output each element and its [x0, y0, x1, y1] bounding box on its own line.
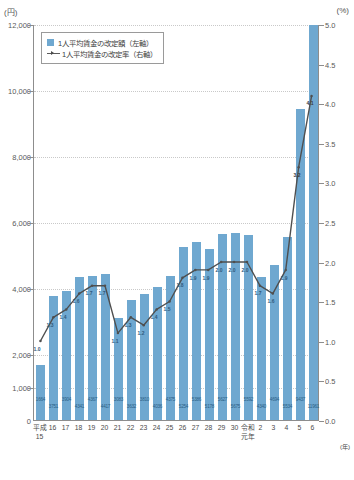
line-marker: [130, 316, 132, 318]
tick-mark-right: [319, 183, 324, 184]
bar-value-label: 4367: [88, 397, 97, 402]
tick-mark-right: [319, 302, 324, 303]
line-marker: [155, 308, 157, 310]
line-marker: [91, 284, 93, 286]
bar-value-label: 5386: [192, 397, 201, 402]
line-value-label: 1.9: [281, 275, 288, 281]
line-marker: [310, 95, 312, 97]
line-series: [34, 25, 318, 420]
bar-value-label: 4694: [270, 397, 279, 402]
y-axis-tick-right: 3.0: [325, 179, 335, 188]
bar-value-label: 5592: [244, 397, 253, 402]
line-value-label: 1.7: [99, 290, 106, 296]
line-value-label: 2.0: [229, 267, 236, 273]
bar-value-label: 5254: [179, 404, 188, 409]
line-value-label: 1.6: [73, 298, 80, 304]
x-axis-label: 3: [272, 424, 276, 433]
line-marker: [220, 261, 222, 263]
x-axis-label: 平成15: [33, 424, 47, 441]
line-value-label: 1.8: [177, 282, 184, 288]
bar-value-label: 4375: [166, 397, 175, 402]
line-marker: [39, 340, 41, 342]
x-axis-label: 令和元年: [241, 424, 255, 441]
line-marker: [104, 284, 106, 286]
right-axis-unit: (%): [337, 6, 349, 15]
bar-value-label: 3083: [114, 397, 123, 402]
y-axis-tick-right: 4.5: [325, 60, 335, 69]
x-axis-label: 21: [114, 424, 122, 433]
x-axis-label: 19: [88, 424, 96, 433]
y-axis-tick-right: 1.0: [325, 337, 335, 346]
x-axis-label: 28: [205, 424, 213, 433]
bar-value-label: 3810: [140, 397, 149, 402]
legend-line-label: 1人平均賃金の改定率（右軸）: [62, 48, 157, 59]
line-value-label: 1.0: [34, 346, 41, 352]
bar-value-label: 4036: [153, 404, 162, 409]
line-marker: [284, 269, 286, 271]
tick-mark-right: [319, 342, 324, 343]
y-axis-tick-right: 5.0: [325, 21, 335, 30]
y-axis-tick-right: 4.0: [325, 100, 335, 109]
line-value-label: 1.5: [164, 306, 171, 312]
legend-item-line: 1人平均賃金の改定率（右軸）: [47, 48, 157, 59]
bar-value-label: 3632: [127, 404, 136, 409]
line-marker: [65, 308, 67, 310]
line-value-label: 1.4: [60, 314, 67, 320]
line-marker: [259, 284, 261, 286]
x-axis-label: 25: [166, 424, 174, 433]
tick-mark-right: [319, 25, 324, 26]
line-value-label: 2.0: [242, 267, 249, 273]
line-value-label: 1.4: [151, 314, 158, 320]
x-axis-label: 26: [179, 424, 187, 433]
x-axis-label: 17: [62, 424, 70, 433]
tick-mark-right: [319, 65, 324, 66]
line-marker: [207, 269, 209, 271]
tick-mark-right: [319, 104, 324, 105]
x-axis-label: 16: [49, 424, 57, 433]
square-swatch-icon: [47, 39, 54, 46]
y-axis-tick-right: 3.5: [325, 139, 335, 148]
wage-revision-chart: (円) (%) 12,00010,0008,0006,0004,0002,000…: [0, 0, 354, 480]
line-value-label: 3.2: [294, 172, 301, 178]
line-value-label: 1.3: [125, 322, 132, 328]
line-value-label: 1.9: [203, 275, 210, 281]
y-axis-tick-right: 1.5: [325, 298, 335, 307]
y-axis-tick-right: 2.5: [325, 219, 335, 228]
plot-area: 1.01.31.41.61.71.71.11.31.21.41.51.81.91…: [33, 25, 319, 421]
bar-value-label: 5627: [218, 397, 227, 402]
line-marker: [168, 300, 170, 302]
tick-mark-right: [319, 263, 324, 264]
line-marker: [297, 166, 299, 168]
bar-value-label: 3904: [62, 397, 71, 402]
line-value-label: 1.7: [86, 290, 93, 296]
tick-mark-right: [319, 421, 324, 422]
line-marker: [117, 332, 119, 334]
tick-mark-right: [319, 381, 324, 382]
bar-value-label: 9437: [296, 397, 305, 402]
x-axis-label: 18: [75, 424, 83, 433]
x-axis-label: 5: [298, 424, 302, 433]
x-axis-label: 6: [311, 424, 315, 433]
tick-mark-right: [319, 223, 324, 224]
line-marker: [246, 261, 248, 263]
x-axis-unit: (年): [340, 442, 350, 451]
x-axis-label: 4: [285, 424, 289, 433]
line-marker: [181, 277, 183, 279]
line-marker: [52, 316, 54, 318]
x-axis-label: 2: [259, 424, 263, 433]
line-value-label: 1.7: [255, 290, 262, 296]
line-value-label: 1.2: [138, 330, 145, 336]
legend-item-bar: 1人平均賃金の改定額（左軸）: [47, 37, 157, 48]
bar-value-label: 11961: [308, 404, 319, 409]
bar-value-label: 4417: [101, 404, 110, 409]
line-value-label: 4.1: [307, 100, 314, 106]
x-axis-label: 29: [218, 424, 226, 433]
bar-value-label: 3751: [49, 404, 58, 409]
line-marker: [233, 261, 235, 263]
chart-legend: 1人平均賃金の改定額（左軸） 1人平均賃金の改定率（右軸）: [41, 32, 164, 64]
bar-value-label: 5178: [205, 404, 214, 409]
x-axis-label: 23: [140, 424, 148, 433]
x-axis-label: 22: [127, 424, 135, 433]
bar-value-label: 5534: [283, 404, 292, 409]
line-value-label: 1.6: [268, 298, 275, 304]
